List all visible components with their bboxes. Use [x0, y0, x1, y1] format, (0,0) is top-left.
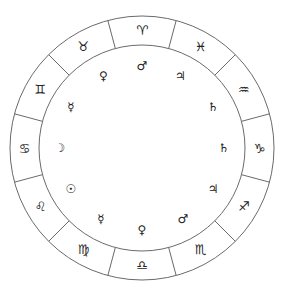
sun-icon: ☉	[66, 182, 77, 196]
venus-icon: ♀	[138, 223, 147, 237]
sign-divider	[169, 20, 177, 48]
sign-divider	[49, 221, 70, 242]
ruler-glyphs: ♂♀☿☽☉☿♀♂♃♄♄♃	[55, 59, 230, 237]
aries-sign-icon: ♈	[136, 23, 148, 38]
sign-divider	[169, 247, 177, 275]
scorpio-sign-icon: ♏	[195, 242, 207, 257]
sagittarius-sign-icon: ♐	[238, 199, 250, 214]
saturn-icon: ♄	[219, 141, 230, 155]
sign-divider	[108, 247, 116, 275]
sign-divider	[241, 175, 269, 183]
saturn-icon: ♄	[208, 100, 219, 114]
venus-icon: ♀	[99, 69, 108, 83]
mars-icon: ♂	[178, 212, 189, 226]
sign-divider	[14, 114, 42, 122]
pisces-sign-icon: ♓	[195, 39, 207, 54]
capricorn-sign-icon: ♑	[254, 141, 266, 156]
mercury-icon: ☿	[97, 212, 104, 226]
virgo-sign-icon: ♍	[77, 242, 89, 257]
sign-divider	[108, 20, 116, 48]
sign-divider	[215, 55, 236, 76]
taurus-sign-icon: ♉	[77, 39, 89, 54]
inner-ring	[39, 45, 245, 251]
mars-icon: ♂	[137, 59, 148, 73]
sign-divider	[215, 221, 236, 242]
sign-divider	[241, 114, 269, 122]
gemini-sign-icon: ♊	[34, 82, 46, 97]
zodiac-wheel: ♈♉♊♋♌♍♎♏♐♑♒♓ ♂♀☿☽☉☿♀♂♃♄♄♃	[0, 0, 281, 293]
cancer-sign-icon: ♋	[19, 141, 31, 156]
jupiter-icon: ♃	[175, 69, 186, 83]
sign-divider	[49, 55, 70, 76]
aquarius-sign-icon: ♒	[238, 82, 250, 97]
libra-sign-icon: ♎	[136, 258, 148, 273]
moon-icon: ☽	[55, 141, 66, 155]
sign-divider	[14, 175, 42, 183]
jupiter-icon: ♃	[208, 182, 219, 196]
leo-sign-icon: ♌	[34, 199, 46, 214]
mercury-icon: ☿	[67, 100, 74, 114]
